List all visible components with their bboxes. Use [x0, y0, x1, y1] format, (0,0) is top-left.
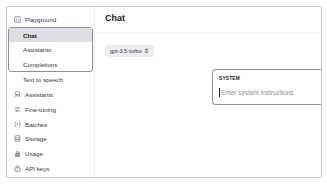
sidebar-item-api-keys[interactable]: API keys — [7, 161, 94, 176]
sidebar-item-assistants[interactable]: Assistants — [7, 87, 94, 102]
system-instructions-input[interactable] — [219, 88, 319, 97]
sidebar-item-label: Playground — [25, 16, 56, 23]
sidebar-item-label: Fine-tuning — [25, 106, 56, 113]
sidebar-item-label: Batches — [25, 121, 47, 128]
sidebar-item-label: Assistants — [25, 91, 53, 98]
sidebar-item-text-to-speech[interactable]: Text to speech — [7, 72, 94, 87]
sidebar-item-fine-tuning[interactable]: Fine-tuning — [7, 102, 94, 117]
sidebar-item-label: Text to speech — [23, 76, 63, 83]
model-select-value: gpt-3.5-turbo — [110, 48, 142, 54]
sidebar-item-assistants-playground[interactable]: Assistants — [9, 42, 92, 57]
sidebar-item-storage[interactable]: Storage — [7, 131, 94, 146]
system-label: SYSTEM — [219, 76, 322, 81]
fine-tuning-icon — [13, 105, 21, 113]
usage-icon — [13, 150, 21, 158]
header-divider — [96, 32, 321, 33]
sidebar-item-label: Assistants — [23, 46, 51, 53]
sidebar-item-batches[interactable]: Batches — [7, 117, 94, 132]
playground-submenu: Chat Assistants Completions — [8, 27, 93, 73]
main-content: Chat gpt-3.5-turbo ⇕ SYSTEM — [96, 7, 321, 177]
sidebar-item-label: Completions — [23, 61, 57, 68]
assistants-icon — [13, 90, 21, 98]
sidebar: Playground Chat Assistants Completions T… — [7, 7, 95, 177]
sidebar-item-label: Storage — [25, 135, 47, 142]
playground-icon — [13, 15, 21, 23]
playground-window: Playground Chat Assistants Completions T… — [6, 6, 322, 178]
chevron-up-down-icon: ⇕ — [144, 48, 149, 54]
system-instructions-card: SYSTEM — [212, 69, 322, 105]
sidebar-item-label: API keys — [25, 165, 49, 172]
sidebar-item-label: Chat — [23, 32, 37, 39]
model-select[interactable]: gpt-3.5-turbo ⇕ — [105, 45, 154, 57]
sidebar-item-usage[interactable]: Usage — [7, 146, 94, 161]
batches-icon — [13, 120, 21, 128]
sidebar-item-completions[interactable]: Completions — [9, 57, 92, 72]
page-title: Chat — [105, 13, 125, 23]
sidebar-item-label: Usage — [25, 150, 43, 157]
api-keys-icon — [13, 164, 21, 172]
sidebar-item-playground[interactable]: Playground — [7, 12, 94, 27]
storage-icon — [13, 135, 21, 143]
sidebar-item-chat[interactable]: Chat — [9, 28, 92, 43]
